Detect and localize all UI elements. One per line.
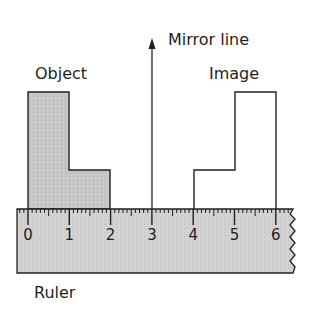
ruler-number: 3 (147, 226, 157, 244)
image-label: Image (209, 64, 259, 83)
ruler-number: 0 (23, 226, 33, 244)
arrow-up-icon (149, 38, 156, 49)
ruler-number: 1 (65, 226, 75, 244)
ruler-number: 2 (106, 226, 116, 244)
mirror-line-label: Mirror line (168, 30, 249, 49)
image-shape (194, 92, 276, 209)
object-label: Object (35, 64, 87, 83)
ruler-number: 6 (271, 226, 281, 244)
ruler-number: 4 (188, 226, 198, 244)
ruler: 0123456 (17, 209, 295, 273)
reflection-diagram: 0123456 Object Mirror line Image Ruler (0, 0, 328, 314)
ruler-label: Ruler (34, 283, 76, 302)
object-shape (28, 92, 110, 209)
ruler-number: 5 (230, 226, 240, 244)
mirror-line (149, 38, 156, 232)
